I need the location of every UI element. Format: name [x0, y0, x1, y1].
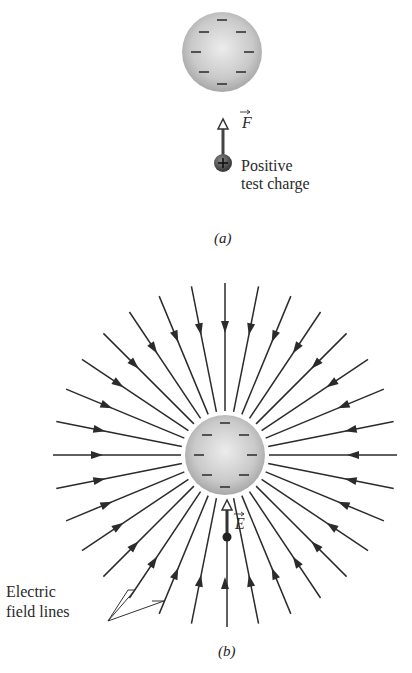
field-label: E	[235, 515, 245, 533]
diagram-canvas	[0, 0, 412, 673]
force-arrow	[218, 119, 228, 160]
annotation-pointer	[108, 590, 164, 621]
test-charge	[214, 154, 232, 172]
annotation-label-1: Electric	[6, 583, 56, 601]
caption-b: (b)	[218, 643, 236, 660]
caption-a: (a)	[214, 230, 232, 247]
charged-sphere-a	[182, 12, 262, 92]
charged-sphere-b	[185, 415, 265, 495]
test-charge-label-2: test charge	[241, 175, 310, 193]
force-label: F	[242, 114, 252, 132]
annotation-label-2: field lines	[6, 603, 70, 621]
test-charge-label-1: Positive	[241, 157, 293, 175]
